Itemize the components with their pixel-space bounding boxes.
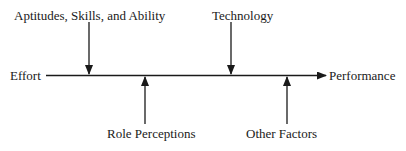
performance-label: Performance xyxy=(329,69,395,82)
role-perceptions-label: Role Perceptions xyxy=(107,127,195,140)
other-factors-label: Other Factors xyxy=(246,127,317,140)
aptitudes-label: Aptitudes, Skills, and Ability xyxy=(14,9,165,22)
technology-label: Technology xyxy=(212,9,273,22)
effort-label: Effort xyxy=(10,69,41,82)
